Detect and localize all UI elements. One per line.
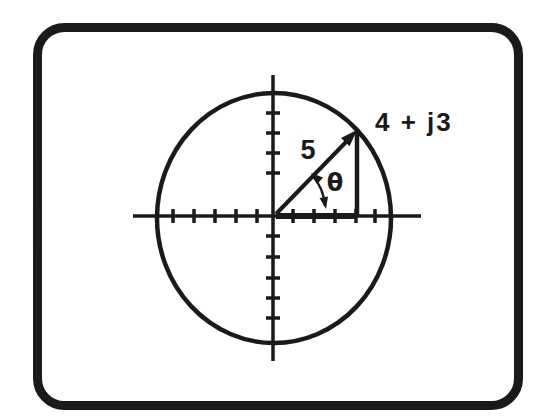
figure-canvas: 5 θ 4 + j3 — [0, 0, 542, 419]
angle-arc-arrowhead-lower — [320, 197, 329, 210]
point-label: 4 + j3 — [375, 107, 453, 137]
magnitude-label: 5 — [300, 135, 315, 165]
angle-label: θ — [327, 169, 344, 197]
phasor-diagram: 5 θ 4 + j3 — [0, 0, 542, 419]
